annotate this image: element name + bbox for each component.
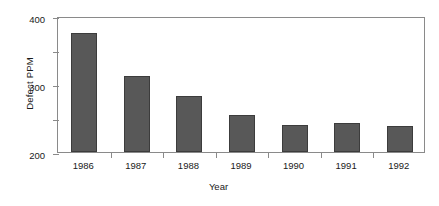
x-axis-tick: [111, 152, 112, 158]
bar-chart: Defect PPM 0100200300400 198619871988198…: [0, 0, 439, 206]
x-axis-tick: [268, 152, 269, 158]
x-axis-tick-label: 1989: [215, 160, 268, 171]
bar-cell: [268, 18, 321, 152]
bar[interactable]: [282, 125, 308, 152]
bar-cell: [58, 18, 111, 152]
bar-cell: [111, 18, 164, 152]
bar[interactable]: [71, 33, 97, 152]
x-axis-tick: [216, 152, 217, 158]
y-axis-tick: 0: [53, 154, 59, 155]
x-axis-tick: [163, 152, 164, 158]
bar[interactable]: [229, 115, 255, 152]
x-axis-tick-label: 1990: [267, 160, 320, 171]
bar-series: [58, 18, 424, 152]
x-axis-tick-label: 1991: [320, 160, 373, 171]
bar-cell: [321, 18, 374, 152]
y-axis-tick-label: 300: [29, 81, 45, 92]
plot-area: 0100200300400: [57, 17, 425, 153]
bar[interactable]: [176, 96, 202, 152]
bar[interactable]: [334, 123, 360, 152]
bar-cell: [216, 18, 269, 152]
bar[interactable]: [387, 126, 413, 152]
bar-cell: [163, 18, 216, 152]
x-axis-tick-label: 1987: [110, 160, 163, 171]
x-axis-tick-label: 1992: [372, 160, 425, 171]
bar-cell: [373, 18, 426, 152]
x-axis-title: Year: [0, 181, 439, 192]
y-axis-tick-label: 200: [29, 149, 45, 160]
bar[interactable]: [124, 76, 150, 153]
y-axis-tick-label: 400: [29, 13, 45, 24]
x-axis-tick: [321, 152, 322, 158]
x-axis-title-text: Year: [209, 181, 228, 192]
x-axis-tick-label: 1988: [162, 160, 215, 171]
x-axis-tick-label: 1986: [57, 160, 110, 171]
x-axis-tick: [373, 152, 374, 158]
